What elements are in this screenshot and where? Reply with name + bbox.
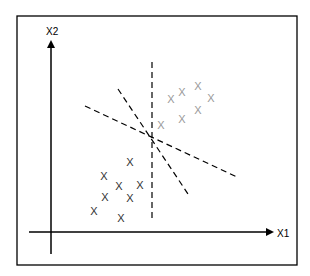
class_a-point-marker: X [90, 205, 98, 217]
class_b-point-marker: X [178, 86, 186, 98]
class_b-point-marker: X [207, 92, 215, 104]
diagram-canvas: X1 X2 XXXXXXXXXXXXXXX [0, 0, 310, 276]
class_a-point-marker: X [126, 156, 134, 168]
class_a-point-marker: X [136, 179, 144, 191]
class_b-point-marker: X [194, 104, 202, 116]
separating-line-3 [118, 89, 190, 197]
class_a-point-marker: X [117, 212, 125, 224]
diagram-frame [17, 16, 297, 265]
class_a-point-marker: X [100, 170, 108, 182]
class_a-point-marker: X [126, 192, 134, 204]
separating-line-2 [85, 106, 237, 177]
class_a-point-marker: X [101, 191, 109, 203]
class_b-point-marker: X [167, 93, 175, 105]
class_b-point-marker: X [194, 80, 202, 92]
data-points: XXXXXXXXXXXXXXX [90, 80, 215, 224]
y-axis-label: X2 [46, 26, 59, 37]
class_b-point-marker: X [178, 113, 186, 125]
class_a-point-marker: X [115, 180, 123, 192]
x-axis-label: X1 [277, 228, 290, 239]
class_b-point-marker: X [157, 119, 165, 131]
